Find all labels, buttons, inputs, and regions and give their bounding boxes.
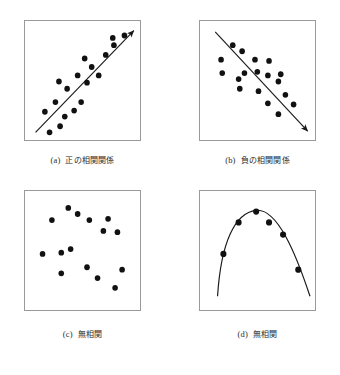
- panel-a-scatter-svg: [25, 21, 142, 142]
- panel-b-plot-box: [199, 20, 316, 141]
- panel-d-caption: (d)無相関: [199, 328, 316, 339]
- panel-d-plot-box: [199, 190, 316, 311]
- panel-c-caption-tag: (c): [63, 329, 73, 339]
- panel-c-points: [40, 205, 125, 291]
- panel-a-caption-tag: (a): [50, 155, 60, 165]
- panel-a-points: [42, 33, 127, 136]
- panel-a: (a)正の相関関係: [24, 20, 141, 172]
- panel-c-caption-text: 無相関: [78, 330, 103, 339]
- panel-d-caption-text: 無相関: [253, 330, 278, 339]
- panel-b-caption-text: 負の相関関係: [241, 156, 290, 165]
- panel-d-scatter-svg: [200, 191, 317, 312]
- panel-c-plot-box: [24, 190, 141, 311]
- panel-b-caption-tag: (b): [225, 155, 236, 165]
- panel-c: (c)無相関: [24, 190, 141, 342]
- panel-a-caption-text: 正の相関関係: [65, 156, 114, 165]
- correlation-figure: (a)正の相関関係: [0, 0, 340, 375]
- panel-b: (b)負の相関関係: [199, 20, 316, 172]
- panel-d-trend-curve: [218, 210, 310, 296]
- panel-b-trend-arrow: [215, 32, 307, 131]
- panel-a-plot-box: [24, 20, 141, 141]
- panel-b-caption: (b)負の相関関係: [199, 154, 316, 165]
- panel-a-caption: (a)正の相関関係: [24, 154, 141, 165]
- panel-d-caption-tag: (d): [237, 329, 248, 339]
- panel-c-caption: (c)無相関: [24, 328, 141, 339]
- panel-d: (d)無相関: [199, 190, 316, 342]
- panel-d-points: [220, 208, 301, 272]
- panel-c-scatter-svg: [25, 191, 142, 312]
- panel-b-scatter-svg: [200, 21, 317, 142]
